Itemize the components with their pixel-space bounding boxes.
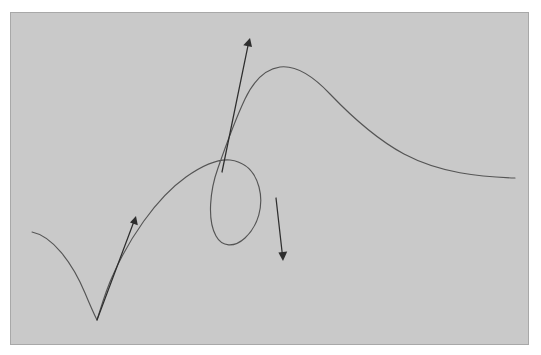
parametric-curve <box>32 67 515 320</box>
tangent-arrow-up-shaft <box>222 44 248 172</box>
screenshot-root <box>0 0 541 355</box>
tangent-arrow-down-head <box>278 252 287 261</box>
curve-group <box>32 67 515 320</box>
tangent-arrow-down-shaft <box>276 198 282 254</box>
tangent-arrow-up-head <box>243 38 252 47</box>
tangent-arrow-left-shaft <box>97 221 134 320</box>
tangent-arrow-left <box>97 216 138 320</box>
tangent-arrow-down <box>276 198 287 261</box>
tangent-arrow-left-head <box>130 216 138 225</box>
curve-figure <box>0 0 541 355</box>
tangent-arrow-up <box>222 38 252 172</box>
